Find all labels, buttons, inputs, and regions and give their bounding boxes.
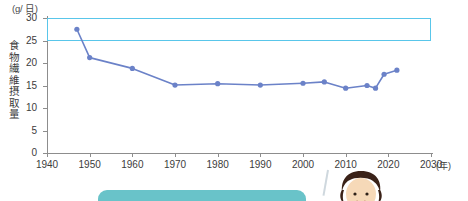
y-tick-label-20: 20 — [26, 57, 37, 68]
y-axis-title: 食物繊維摂取量 — [7, 40, 21, 121]
x-tick-label-2000: 2000 — [292, 159, 314, 170]
x-tick-2020 — [388, 153, 389, 157]
pointer-line — [322, 170, 328, 196]
x-tick-label-1960: 1960 — [121, 159, 143, 170]
series-line — [77, 29, 397, 88]
y-tick-label-15: 15 — [26, 80, 37, 91]
character-illustration — [330, 168, 392, 201]
y-tick-label-30: 30 — [26, 12, 37, 23]
x-axis-line — [47, 153, 433, 154]
y-tick-label-5: 5 — [31, 125, 37, 136]
x-tick-label-1990: 1990 — [249, 159, 271, 170]
data-point-2017 — [373, 86, 378, 91]
x-tick-1950 — [90, 153, 91, 157]
data-point-2015 — [364, 83, 369, 88]
x-tick-1970 — [175, 153, 176, 157]
x-tick-1980 — [218, 153, 219, 157]
data-point-2022 — [394, 68, 399, 73]
x-tick-1990 — [260, 153, 261, 157]
y-tick-label-0: 0 — [31, 147, 37, 158]
x-tick-label-1950: 1950 — [79, 159, 101, 170]
x-tick-1960 — [132, 153, 133, 157]
data-point-2019 — [381, 72, 386, 77]
x-tick-label-1970: 1970 — [164, 159, 186, 170]
data-point-1950 — [87, 55, 92, 60]
x-tick-2010 — [346, 153, 347, 157]
x-tick-2030 — [431, 153, 432, 157]
x-tick-1940 — [47, 153, 48, 157]
data-point-2000 — [300, 81, 305, 86]
x-tick-label-1980: 1980 — [207, 159, 229, 170]
y-tick-label-25: 25 — [26, 35, 37, 46]
data-point-1960 — [130, 66, 135, 71]
x-tick-label-1940: 1940 — [36, 159, 58, 170]
dietary-fiber-intake-chart: (g/ 日) 食物繊維摂取量 302520151050 (年) 19401950… — [0, 0, 468, 201]
data-point-1947 — [74, 27, 79, 32]
x-tick-label-2030: 2030 — [420, 159, 442, 170]
data-point-1980 — [215, 81, 220, 86]
data-point-1970 — [172, 82, 177, 87]
data-point-2010 — [343, 86, 348, 91]
y-tick-label-10: 10 — [26, 102, 37, 113]
data-point-2005 — [322, 79, 327, 84]
series-line-group — [47, 18, 431, 153]
plot-area: 302520151050 (年) 19401950196019701980199… — [47, 18, 431, 153]
data-point-1990 — [258, 82, 263, 87]
x-tick-2000 — [303, 153, 304, 157]
speech-bubble — [98, 190, 306, 201]
